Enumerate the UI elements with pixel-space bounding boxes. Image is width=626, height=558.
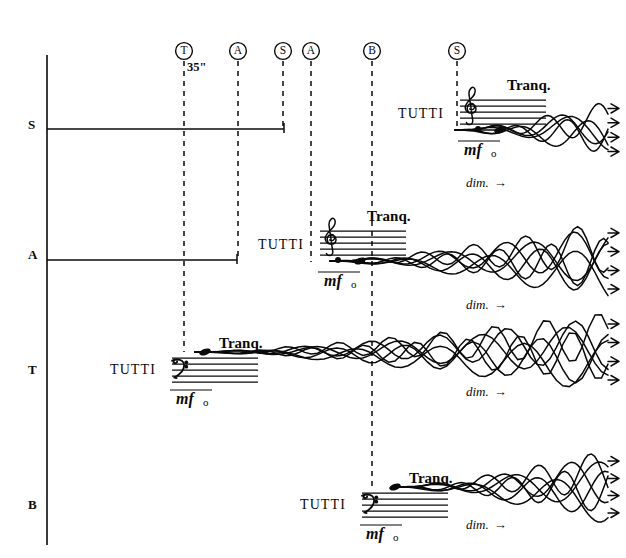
treble-clef-a [325, 218, 336, 255]
cluster-arrowhead-b-2 [608, 491, 619, 500]
dynamic-marking-b: mf [366, 526, 384, 542]
cluster-arrowhead-t-2 [608, 357, 619, 366]
dynamic-marking-t: mf [176, 391, 194, 407]
dim-arrow-icon-a: → [494, 297, 507, 312]
cluster-arrowhead-a-0 [608, 228, 619, 237]
voice-label-s: S [28, 118, 36, 131]
cue-marker-label-t-0: T [176, 45, 192, 57]
cue-marker-label-s-2: S [275, 45, 291, 57]
tutti-label-a: TUTTI [258, 238, 304, 252]
vowel-syllable-s: o [491, 148, 497, 159]
cluster-strand-s-0 [455, 104, 608, 138]
tranquillo-marking-s: Tranq. [507, 78, 550, 93]
cluster-arrowhead-a-3 [608, 285, 619, 294]
voice-label-b: B [28, 498, 37, 511]
cluster-arrowhead-s-1 [608, 118, 619, 127]
cluster-arrowhead-t-1 [608, 338, 619, 347]
dim-marking-a: dim.→ [466, 298, 507, 311]
vowel-syllable-t: o [203, 397, 209, 408]
cluster-arrowhead-a-2 [608, 266, 619, 275]
sound-cluster-group [195, 104, 619, 522]
tranquillo-marking-a: Tranq. [367, 209, 410, 224]
dynamic-marking-s: mf [464, 142, 482, 158]
voice-label-a: A [28, 248, 38, 261]
cluster-arrowhead-b-0 [608, 457, 619, 466]
cluster-arrowhead-t-0 [608, 319, 619, 328]
dim-marking-b: dim.→ [466, 518, 507, 531]
vowel-syllable-a: o [351, 279, 357, 290]
cluster-arrowhead-a-1 [608, 247, 619, 256]
cluster-arrowhead-s-0 [608, 104, 619, 113]
dim-arrow-icon-b: → [494, 517, 507, 532]
vowel-syllable-b: o [393, 532, 399, 543]
tutti-label-s: TUTTI [398, 107, 444, 121]
cluster-arrowhead-b-3 [608, 508, 619, 517]
cue-marker-label-s-5: S [449, 45, 465, 57]
voice-lead-lines-group [47, 123, 284, 264]
bass-clef-t [172, 360, 184, 379]
dim-arrow-icon-s: → [494, 175, 507, 190]
dim-marking-t: dim.→ [466, 385, 507, 398]
bass-clef-b-dot-lower [374, 500, 378, 504]
cue-marker-label-b-4: B [364, 45, 380, 57]
cluster-arrowhead-s-2 [608, 133, 619, 142]
cluster-arrowhead-s-3 [608, 147, 619, 156]
cluster-arrowhead-b-1 [608, 474, 619, 483]
bass-clef-b [362, 495, 374, 514]
cue-duration-label: 35" [187, 61, 206, 74]
voice-label-t: T [28, 363, 37, 376]
cue-marker-label-a-3: A [303, 45, 319, 57]
bass-clef-b-dot-upper [374, 495, 378, 499]
cue-marker-label-a-1: A [230, 45, 246, 57]
dynamic-marking-a: mf [324, 273, 342, 289]
tutti-label-b: TUTTI [300, 498, 346, 512]
bass-clef-t-dot-upper [184, 360, 188, 364]
treble-clef-s [465, 87, 476, 124]
tranquillo-marking-b: Tranq. [409, 471, 452, 486]
graphic-score-page: T35"ASABSSTUTTITranq.mfodim.→ATUTTITranq… [0, 0, 626, 558]
bass-clef-t-dot-lower [184, 365, 188, 369]
tutti-label-t: TUTTI [110, 363, 156, 377]
tranquillo-marking-t: Tranq. [219, 336, 262, 351]
dim-marking-s: dim.→ [466, 176, 507, 189]
dim-arrow-icon-t: → [494, 384, 507, 399]
cluster-arrowhead-t-3 [608, 376, 619, 385]
